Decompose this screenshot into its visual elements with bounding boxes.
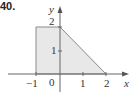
y-tick-label: 1 bbox=[51, 45, 57, 56]
shaded-region bbox=[36, 27, 106, 74]
x-axis-label: x bbox=[124, 78, 129, 89]
y-axis-arrow-icon bbox=[58, 6, 63, 13]
y-axis-label: y bbox=[49, 4, 54, 15]
y-tick-label: 2 bbox=[49, 16, 55, 27]
x-tick-label: 0 bbox=[49, 77, 55, 88]
x-tick-label: 2 bbox=[104, 78, 110, 89]
x-tick-label: −1 bbox=[26, 78, 38, 89]
x-tick-label: 1 bbox=[80, 78, 86, 89]
region-plot bbox=[0, 0, 134, 101]
x-axis-arrow-icon bbox=[122, 72, 129, 77]
